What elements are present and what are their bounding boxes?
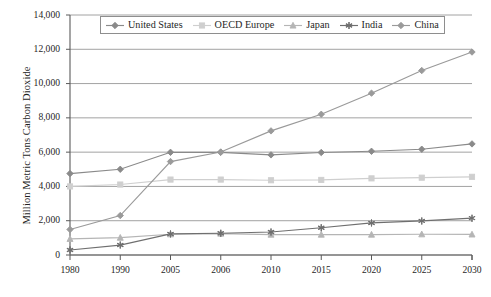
x-tick-label: 2006 [195,264,247,275]
legend-item-china[interactable]: China [391,20,438,31]
co2-emissions-line-chart: Million Metric Tons Carbon Dioxide 02,00… [0,0,491,297]
legend-item-oecd-europe[interactable]: OECD Europe [192,20,275,31]
triangle-marker-icon [283,20,303,31]
legend-label: India [362,20,383,30]
legend-label: China [414,20,438,30]
x-tick-label: 1990 [94,264,146,275]
diamond-marker-icon [391,20,411,31]
diamond-marker-icon [105,20,125,31]
square-marker-icon [192,20,212,31]
legend-item-india[interactable]: India [339,20,383,31]
x-axis-tick-labels: 198019902005200620102015202020252030 [0,0,491,297]
x-tick-label: 2020 [346,264,398,275]
asterisk-marker-icon [339,20,359,31]
legend-item-japan[interactable]: Japan [283,20,329,31]
chart-legend: United StatesOECD EuropeJapanIndiaChina [100,16,445,34]
legend-item-united-states[interactable]: United States [105,20,183,31]
square-marker-icon [199,22,204,27]
legend-label: Japan [306,20,329,30]
legend-label: OECD Europe [215,20,275,30]
x-tick-label: 2030 [446,264,491,275]
x-tick-label: 2010 [245,264,297,275]
x-tick-label: 2015 [295,264,347,275]
x-tick-label: 2005 [145,264,197,275]
x-tick-label: 2025 [396,264,448,275]
legend-label: United States [128,20,183,30]
diamond-marker-icon [398,22,404,28]
x-tick-label: 1980 [44,264,96,275]
diamond-marker-icon [112,22,118,28]
